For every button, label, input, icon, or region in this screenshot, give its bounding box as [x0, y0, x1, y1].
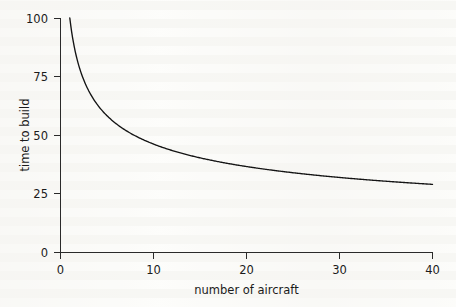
y-tick-label-25: 25 — [33, 187, 48, 201]
x-tick-label-20: 20 — [239, 263, 254, 277]
x-tick-label-10: 10 — [146, 263, 161, 277]
time-to-build-curve — [70, 18, 433, 184]
chart-canvas: 100 75 50 25 0 0 10 20 30 40 number of a… — [0, 0, 456, 307]
x-axis-title: number of aircraft — [194, 283, 299, 297]
y-tick-label-100: 100 — [26, 12, 48, 26]
y-tick-label-75: 75 — [33, 70, 48, 84]
x-tick-label-30: 30 — [332, 263, 347, 277]
y-tick-label-0: 0 — [41, 246, 48, 260]
learning-curve-chart: 100 75 50 25 0 0 10 20 30 40 number of a… — [0, 0, 456, 307]
x-tick-label-40: 40 — [425, 263, 440, 277]
x-tick-label-0: 0 — [57, 263, 64, 277]
y-tick-label-50: 50 — [33, 129, 48, 143]
y-axis-title: time to build — [18, 98, 32, 171]
